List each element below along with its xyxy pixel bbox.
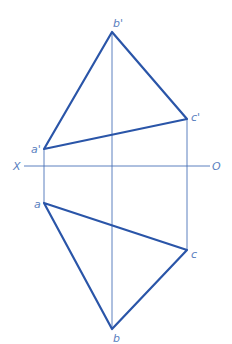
projection-diagram: b' c' a' X O a c b (0, 0, 232, 344)
label-a-prime: a' (31, 143, 41, 156)
label-c: c (191, 248, 197, 261)
label-o: O (212, 160, 221, 173)
label-b-prime: b' (113, 17, 123, 30)
top-view-triangle (44, 203, 187, 329)
label-a: a (34, 198, 41, 211)
label-b: b (113, 332, 120, 344)
front-view-triangle (44, 32, 187, 149)
label-c-prime: c' (191, 111, 200, 124)
label-x: X (12, 160, 21, 173)
